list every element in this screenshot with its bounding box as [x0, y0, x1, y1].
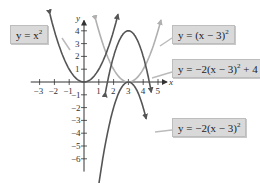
y-tick-label: −3 — [71, 115, 81, 125]
leader-line — [160, 38, 172, 46]
y-tick-label: 4 — [75, 26, 80, 36]
x-axis-label: x — [168, 77, 173, 87]
label-y-equals-x-squared: y = x2 — [10, 25, 48, 44]
x-tick-label: 5 — [156, 86, 161, 96]
leader-line — [62, 38, 70, 50]
y-tick-label: −5 — [71, 141, 81, 151]
label-text: y = x — [16, 29, 39, 41]
x-tick-label: 4 — [141, 86, 146, 96]
label-exponent: 2 — [225, 28, 229, 36]
x-tick-label: 2 — [111, 86, 116, 96]
curve-x-minus-3-squared — [96, 20, 161, 82]
label-exponent: 2 — [237, 121, 241, 129]
label-y-equals-neg2-shifted-plus-4: y = −2(x − 3)2 + 4 — [172, 59, 260, 78]
curve-neg2-shifted — [99, 82, 146, 183]
y-tick-label: 3 — [75, 39, 80, 49]
y-tick-label: −2 — [71, 103, 81, 113]
label-exponent: 2 — [39, 28, 43, 36]
label-y-equals-x-minus-3-squared: y = (x − 3)2 — [172, 25, 235, 44]
y-tick-label: −6 — [71, 154, 81, 164]
y-tick-label: 2 — [75, 51, 80, 61]
y-tick-label: −1 — [71, 90, 81, 100]
label-text: y = (x − 3) — [178, 29, 225, 41]
leader-line — [155, 130, 172, 132]
y-axis-label: y — [75, 13, 80, 23]
label-y-equals-neg2-shifted: y = −2(x − 3)2 — [172, 118, 246, 137]
y-tick-label: −4 — [71, 128, 81, 138]
x-tick-label: 3 — [126, 86, 131, 96]
x-tick-label: −2 — [48, 86, 58, 96]
x-tick-label: 1 — [96, 86, 101, 96]
y-tick-label: 1 — [75, 64, 80, 74]
x-tick-label: −3 — [34, 86, 44, 96]
label-text: y = −2(x − 3) — [178, 122, 237, 134]
label-text: y = −2(x − 3) — [178, 63, 237, 75]
label-tail: + 4 — [240, 63, 257, 75]
